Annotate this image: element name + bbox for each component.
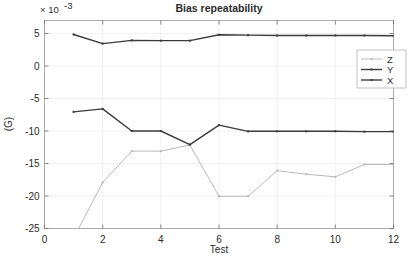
data-point xyxy=(393,35,395,37)
y-tick-label: -15 xyxy=(25,158,40,169)
data-point xyxy=(73,237,75,239)
data-point xyxy=(102,108,104,110)
y-axis-multiplier-base: × 10 xyxy=(40,4,59,15)
data-point xyxy=(247,195,249,197)
data-point xyxy=(276,130,278,132)
legend-label: Z xyxy=(387,54,393,65)
data-point xyxy=(305,173,307,175)
data-point xyxy=(189,40,191,42)
legend-label: Y xyxy=(387,64,394,75)
data-point xyxy=(276,170,278,172)
x-tick-label: 2 xyxy=(100,234,106,245)
data-point xyxy=(334,176,336,178)
x-tick-label: 10 xyxy=(330,234,342,245)
data-point xyxy=(393,131,395,133)
y-tick-label: -25 xyxy=(25,223,40,234)
y-tick-label: -10 xyxy=(25,126,40,137)
legend-marker xyxy=(371,58,373,60)
y-axis-multiplier: × 10 -3 xyxy=(40,0,72,15)
data-point xyxy=(363,163,365,165)
data-point xyxy=(393,163,395,165)
data-point xyxy=(247,130,249,132)
x-tick-label: 12 xyxy=(388,234,400,245)
data-point xyxy=(247,34,249,36)
data-point xyxy=(218,34,220,36)
data-point xyxy=(305,34,307,36)
x-tick-label: 8 xyxy=(274,234,280,245)
y-tick-label: -5 xyxy=(31,93,40,104)
data-point xyxy=(102,43,104,45)
data-point xyxy=(363,131,365,133)
bias-repeatability-chart: 50-5-10-15-20-25 024681012 Bias repeatab… xyxy=(0,0,410,257)
legend-marker xyxy=(371,69,373,71)
series-y xyxy=(73,108,395,146)
x-axis-title: Test xyxy=(210,244,229,255)
data-point xyxy=(305,130,307,132)
series-z xyxy=(73,144,395,239)
figure-panel: 50-5-10-15-20-25 024681012 Bias repeatab… xyxy=(0,0,410,257)
data-point xyxy=(334,130,336,132)
data-point xyxy=(160,130,162,132)
chart-title: Bias repeatability xyxy=(176,2,263,14)
data-point xyxy=(218,195,220,197)
y-axis-title: (G) xyxy=(3,117,14,131)
data-series-group xyxy=(73,33,395,239)
series-x xyxy=(73,33,395,44)
data-point xyxy=(131,130,133,132)
x-tick-labels: 024681012 xyxy=(42,234,400,245)
legend-marker xyxy=(371,79,373,81)
y-tick-label: 5 xyxy=(34,28,40,39)
data-point xyxy=(189,144,191,146)
y-tick-label: -20 xyxy=(25,191,40,202)
data-point xyxy=(73,33,75,35)
data-point xyxy=(334,34,336,36)
x-tick-label: 4 xyxy=(158,234,164,245)
y-tick-labels: 50-5-10-15-20-25 xyxy=(25,28,40,234)
data-point xyxy=(131,39,133,41)
y-axis-multiplier-exponent: -3 xyxy=(64,0,72,11)
x-tick-label: 0 xyxy=(42,234,48,245)
data-point xyxy=(73,111,75,113)
data-point xyxy=(363,34,365,36)
data-point xyxy=(131,150,133,152)
data-point xyxy=(218,124,220,126)
data-point xyxy=(102,181,104,183)
legend-label: X xyxy=(387,75,394,86)
data-point xyxy=(276,34,278,36)
chart-legend[interactable]: ZYX xyxy=(357,50,406,88)
data-point xyxy=(160,150,162,152)
data-point xyxy=(160,40,162,42)
x-tick-label: 6 xyxy=(216,234,222,245)
y-tick-label: 0 xyxy=(34,61,40,72)
